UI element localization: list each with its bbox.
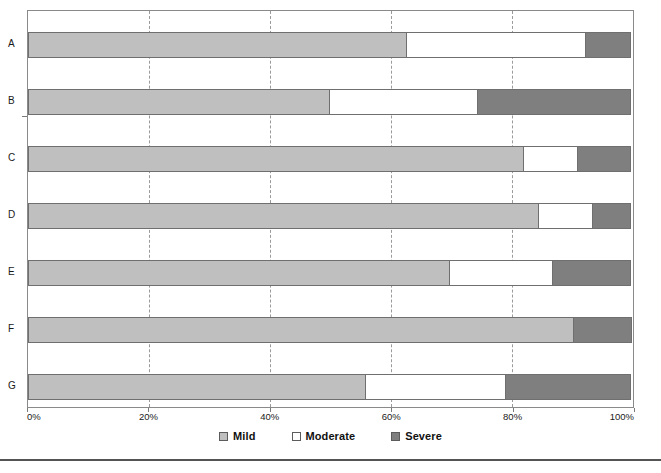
bar-row: [28, 203, 633, 229]
bar-row: [28, 32, 633, 58]
bar-segment-mild: [28, 374, 366, 400]
bar-segment-severe: [477, 89, 631, 115]
category-label-text: B: [8, 95, 32, 106]
bar-segment-moderate: [406, 32, 586, 58]
bar-segment-severe: [592, 203, 631, 229]
legend-swatch-icon: [391, 432, 400, 441]
bar-segment-mild: [28, 89, 330, 115]
bar-segment-severe: [573, 317, 632, 343]
legend-item-moderate[interactable]: Moderate: [292, 430, 356, 442]
category-label-a: A: [8, 38, 32, 49]
stacked-bar-chart: ABCDEFG 0%20%40%60%80%100% MildModerateS…: [0, 0, 661, 473]
category-label-text: A: [8, 38, 32, 49]
x-axis-tick-label: 0%: [27, 411, 41, 422]
category-label-text: F: [8, 323, 32, 334]
category-label-d: D: [8, 209, 32, 220]
x-axis-tick-label: 20%: [139, 411, 158, 422]
bar-segment-moderate: [329, 89, 478, 115]
legend-swatch-icon: [292, 432, 301, 441]
bar-segment-mild: [28, 317, 574, 343]
bar-segment-severe: [585, 32, 631, 58]
x-axis-tick-label: 80%: [503, 411, 522, 422]
x-axis-tick-mark: [634, 408, 635, 412]
legend-item-mild[interactable]: Mild: [219, 430, 255, 442]
category-label-f: F: [8, 323, 32, 334]
bars-layer: [28, 11, 633, 407]
category-label-text: E: [8, 266, 32, 277]
bar-segment-severe: [505, 374, 631, 400]
x-axis-tick-label: 40%: [260, 411, 279, 422]
legend-label: Moderate: [306, 430, 356, 442]
category-label-text: D: [8, 209, 32, 220]
category-label-text: G: [8, 380, 32, 391]
legend-label: Severe: [405, 430, 442, 442]
bar-row: [28, 317, 633, 343]
plot-area: [27, 10, 634, 408]
legend-swatch-icon: [219, 432, 228, 441]
bar-segment-mild: [28, 260, 450, 286]
bar-row: [28, 374, 633, 400]
category-label-c: C: [8, 152, 32, 163]
x-axis-tick-label: 100%: [610, 411, 634, 422]
bar-segment-severe: [577, 146, 631, 172]
category-label-g: G: [8, 380, 32, 391]
bar-segment-moderate: [449, 260, 554, 286]
footer-divider: [0, 459, 661, 461]
bar-segment-moderate: [365, 374, 507, 400]
legend-label: Mild: [233, 430, 255, 442]
bar-row: [28, 89, 633, 115]
bar-segment-mild: [28, 203, 539, 229]
chart-legend: MildModerateSevere: [0, 430, 661, 442]
category-label-b: B: [8, 95, 32, 106]
bar-segment-moderate: [538, 203, 593, 229]
bar-segment-mild: [28, 146, 524, 172]
bar-row: [28, 260, 633, 286]
bar-segment-mild: [28, 32, 407, 58]
bar-segment-severe: [552, 260, 631, 286]
legend-item-severe[interactable]: Severe: [391, 430, 442, 442]
bar-row: [28, 146, 633, 172]
bar-segment-moderate: [523, 146, 578, 172]
category-label-text: C: [8, 152, 32, 163]
category-label-e: E: [8, 266, 32, 277]
x-axis-tick-label: 60%: [382, 411, 401, 422]
